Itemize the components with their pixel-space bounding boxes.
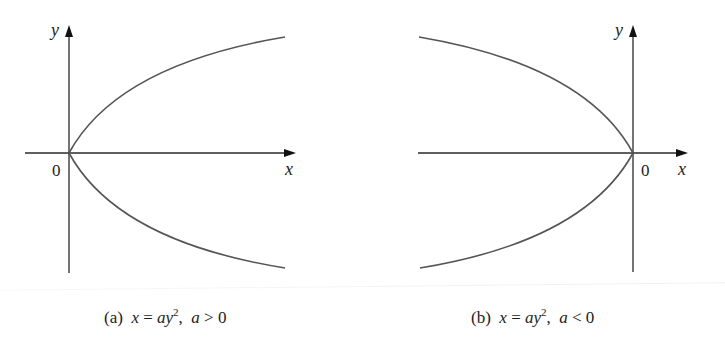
condition-val: 0 xyxy=(586,308,595,327)
equation-lhs: x xyxy=(131,308,139,327)
x-axis-label-b: x xyxy=(677,159,686,179)
condition-var: a xyxy=(559,308,568,327)
equation-equals: = xyxy=(507,308,525,327)
equation-rhs: ay xyxy=(525,308,541,327)
panel-b: y 0 x xyxy=(418,20,688,272)
equation-exponent: 2 xyxy=(541,306,547,318)
condition-var: a xyxy=(191,308,200,327)
equation-equals: = xyxy=(139,308,157,327)
condition-val: 0 xyxy=(218,308,227,327)
y-axis-arrow-icon xyxy=(629,25,637,37)
x-axis-label-a: x xyxy=(284,159,293,179)
caption-tag: (b) xyxy=(471,308,491,327)
y-axis-arrow-icon xyxy=(65,25,73,37)
caption-a: (a) x = ay2, a > 0 xyxy=(104,306,226,328)
equation-rhs: ay xyxy=(157,308,173,327)
caption-b: (b) x = ay2, a < 0 xyxy=(471,306,594,328)
parabola-figure: y 0 x y 0 x (a) x = ay2, a > 0 (b) x = a… xyxy=(0,0,725,343)
equation-exponent: 2 xyxy=(173,306,179,318)
y-axis-label-b: y xyxy=(613,20,623,40)
x-axis-arrow-icon xyxy=(284,149,296,157)
equation-lhs: x xyxy=(499,308,507,327)
parabola-diagram: y 0 x y 0 x xyxy=(0,0,725,343)
origin-label-b: 0 xyxy=(641,161,650,180)
y-axis-label-a: y xyxy=(49,20,59,40)
condition-op: > xyxy=(200,308,218,327)
panel-a: y 0 x xyxy=(25,20,296,273)
condition-op: < xyxy=(568,308,586,327)
origin-label-a: 0 xyxy=(52,161,61,180)
x-axis-arrow-icon xyxy=(676,149,688,157)
caption-tag: (a) xyxy=(104,308,123,327)
